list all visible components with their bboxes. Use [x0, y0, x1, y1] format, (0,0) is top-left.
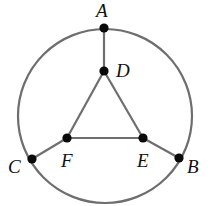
- node-c: [27, 154, 36, 163]
- node-a: [99, 23, 108, 32]
- label-c: C: [8, 156, 21, 177]
- label-e: E: [136, 150, 149, 171]
- label-a: A: [94, 0, 108, 21]
- label-f: F: [60, 150, 73, 171]
- edge-d-f: [67, 71, 104, 138]
- label-d: D: [115, 60, 130, 81]
- node-e: [138, 133, 147, 142]
- graph-diagram: A D F E C B: [0, 0, 213, 206]
- edge-d-e: [104, 71, 143, 138]
- node-b: [174, 153, 183, 162]
- node-d: [99, 66, 108, 75]
- edges: [32, 28, 179, 159]
- nodes: [27, 23, 183, 163]
- node-f: [62, 133, 71, 142]
- label-b: B: [187, 156, 199, 177]
